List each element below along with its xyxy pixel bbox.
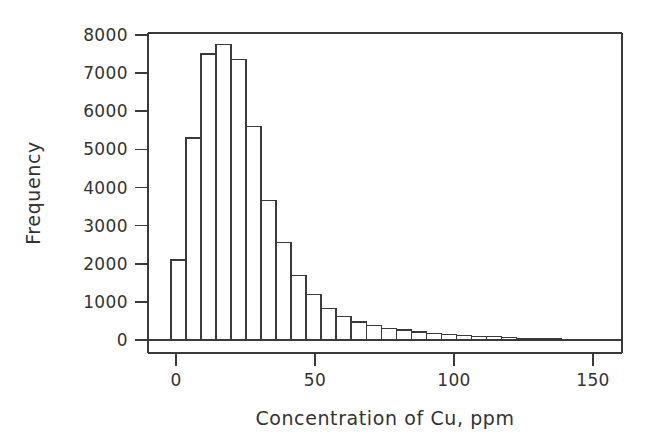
histogram-bar bbox=[576, 339, 591, 340]
y-tick-label: 7000 bbox=[83, 63, 128, 83]
histogram-bar bbox=[321, 309, 336, 340]
histogram-bar bbox=[216, 45, 231, 340]
y-tick-label: 3000 bbox=[83, 216, 128, 236]
histogram-bar bbox=[486, 337, 501, 340]
histogram-bar bbox=[231, 60, 246, 340]
histogram-bar bbox=[426, 334, 441, 340]
y-tick-labels: 010002000300040005000600070008000 bbox=[83, 25, 128, 350]
y-axis-title: Frequency bbox=[22, 141, 44, 245]
histogram-bar bbox=[591, 340, 606, 341]
histogram-bar bbox=[516, 338, 531, 340]
x-axis-title: Concentration of Cu, ppm bbox=[255, 407, 514, 429]
y-tick-label: 8000 bbox=[83, 25, 128, 45]
x-tick-label: 150 bbox=[576, 370, 610, 390]
histogram-bar bbox=[546, 339, 561, 340]
y-tick-label: 1000 bbox=[83, 292, 128, 312]
histogram-bar bbox=[276, 243, 291, 340]
histogram-bar bbox=[411, 332, 426, 340]
histogram-bar bbox=[531, 339, 546, 340]
y-tick-label: 0 bbox=[117, 330, 128, 350]
histogram-figure: 010002000300040005000600070008000 Freque… bbox=[0, 0, 653, 444]
histogram-bar bbox=[471, 336, 486, 340]
histogram-bar bbox=[561, 339, 576, 340]
x-tick-label: 100 bbox=[437, 370, 471, 390]
histogram-bar bbox=[261, 201, 276, 340]
histogram-bar bbox=[456, 335, 471, 340]
histogram-bar bbox=[201, 54, 216, 340]
x-tick-label: 0 bbox=[170, 370, 181, 390]
histogram-bar bbox=[381, 328, 396, 340]
histogram-bar bbox=[246, 127, 261, 341]
histogram-bar bbox=[366, 326, 381, 340]
histogram-bar bbox=[186, 138, 201, 340]
histogram-bar bbox=[336, 316, 351, 340]
histogram-bar bbox=[441, 335, 456, 340]
histogram-bar bbox=[291, 275, 306, 340]
y-tick-label: 5000 bbox=[83, 139, 128, 159]
histogram-bar bbox=[306, 294, 321, 340]
histogram-bar bbox=[171, 260, 186, 340]
y-tick-label: 2000 bbox=[83, 254, 128, 274]
y-tick-label: 4000 bbox=[83, 178, 128, 198]
x-tick-label: 50 bbox=[304, 370, 326, 390]
histogram-bar bbox=[501, 338, 516, 340]
histogram-bar bbox=[351, 322, 366, 340]
histogram-bar bbox=[396, 330, 411, 340]
y-tick-label: 6000 bbox=[83, 101, 128, 121]
